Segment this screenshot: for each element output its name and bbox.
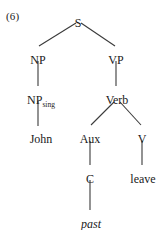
tree-node-label: Aux — [80, 132, 101, 146]
tree-node-verb: Verb — [106, 94, 129, 106]
tree-node-label: NP — [30, 53, 45, 67]
tree-node-label: S — [75, 16, 82, 30]
tree-edge-s-vp — [81, 23, 115, 46]
tree-leaf-past: past — [81, 218, 101, 230]
tree-node-aux: Aux — [80, 133, 101, 145]
tree-node-npsing: NPsing — [27, 94, 55, 108]
tree-node-label: NP — [27, 93, 42, 107]
tree-node-vp: VP — [108, 54, 123, 66]
tree-node-c: C — [86, 173, 94, 185]
tree-node-s: S — [75, 17, 82, 29]
tree-node-v: V — [138, 133, 147, 145]
tree-leaf-leave: leave — [130, 173, 155, 185]
tree-node-label: VP — [108, 53, 123, 67]
example-number-label: (6) — [6, 10, 19, 22]
tree-node-np: NP — [30, 54, 45, 66]
tree-node-label: C — [86, 172, 94, 186]
tree-edge-s-np — [39, 23, 76, 46]
syntax-tree-figure: (6) SNPVPNPsingVerbAuxVCJohnleavepast — [0, 0, 165, 230]
tree-node-subscript: sing — [42, 100, 55, 109]
tree-edges — [0, 0, 165, 230]
tree-leaf-john: John — [30, 133, 53, 145]
tree-node-label: Verb — [106, 93, 129, 107]
tree-node-label: V — [138, 132, 147, 146]
